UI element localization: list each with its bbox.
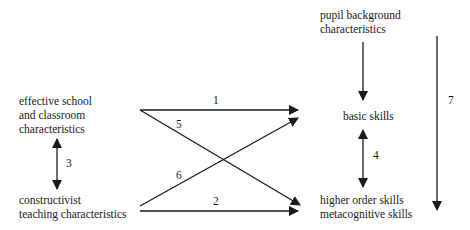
node-pupil-background: pupil background characteristics [320, 8, 401, 36]
node-line: teaching characteristics [19, 207, 127, 221]
node-line: higher order skills [320, 193, 412, 207]
node-effective-school: effective school and classroom character… [19, 94, 92, 136]
edge-6-arrow [140, 118, 298, 206]
node-line: pupil background [320, 8, 401, 22]
edge-label-7: 7 [448, 94, 454, 106]
edge-label-4: 4 [373, 149, 379, 161]
node-line: basic skills [343, 109, 394, 123]
node-constructivist: constructivist teaching characteristics [19, 193, 127, 221]
node-basic-skills: basic skills [343, 109, 394, 123]
node-line: characteristics [19, 122, 92, 136]
edge-label-2: 2 [213, 195, 219, 207]
node-line: characteristics [320, 22, 401, 36]
node-line: effective school [19, 94, 92, 108]
edge-label-6: 6 [176, 169, 182, 181]
node-line: metacognitive skills [320, 207, 412, 221]
node-higher-order-skills: higher order skills metacognitive skills [320, 193, 412, 221]
edge-label-5: 5 [176, 118, 182, 130]
edge-label-3: 3 [66, 157, 72, 169]
node-line: and classroom [19, 108, 92, 122]
node-line: constructivist [19, 193, 127, 207]
edge-label-1: 1 [213, 94, 219, 106]
edge-5-arrow [140, 110, 300, 205]
